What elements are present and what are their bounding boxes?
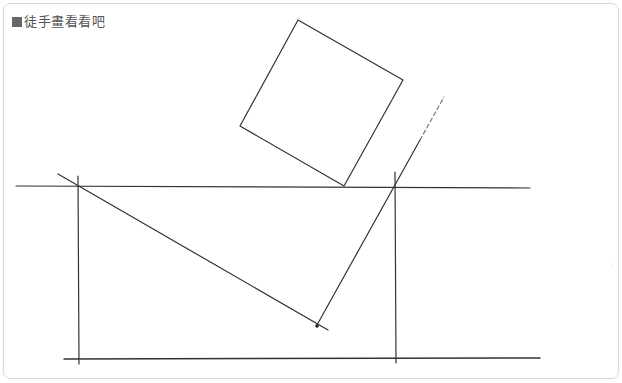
bottom-horizontal-line <box>64 358 540 359</box>
stray-dot <box>611 263 612 264</box>
diagonal-down-line <box>58 174 328 330</box>
rotated-square <box>240 20 403 186</box>
right-vertical-line <box>395 172 396 363</box>
freehand-drawing[interactable] <box>0 0 622 383</box>
intersection-point <box>315 324 319 328</box>
top-horizontal-line <box>16 186 530 188</box>
left-vertical-line <box>78 176 79 364</box>
dashed-extension-line <box>420 97 444 140</box>
slanted-line <box>317 140 420 325</box>
